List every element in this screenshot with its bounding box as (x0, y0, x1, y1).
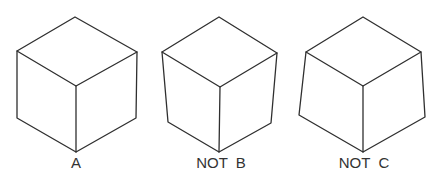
label-a: A (71, 154, 81, 171)
cube-inner-edges (306, 52, 421, 86)
cube-not-c (299, 17, 425, 152)
label-not-b: NOT B (196, 154, 246, 171)
cube-outline (17, 17, 137, 152)
cube-a (17, 17, 137, 152)
cube-inner-edges (162, 52, 277, 87)
cube-outline (299, 17, 425, 152)
cube-front-vertical-edge (219, 87, 220, 152)
label-not-c: NOT C (339, 154, 390, 171)
cube-not-b (162, 17, 277, 152)
cube-inner-edges (17, 51, 137, 86)
